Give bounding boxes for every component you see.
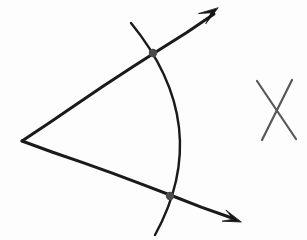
upper-intersection-dot xyxy=(149,49,157,57)
canvas-background xyxy=(0,0,307,240)
lower-intersection-dot xyxy=(166,192,174,200)
figure-canvas xyxy=(0,0,307,240)
geometry-figure xyxy=(0,0,307,240)
